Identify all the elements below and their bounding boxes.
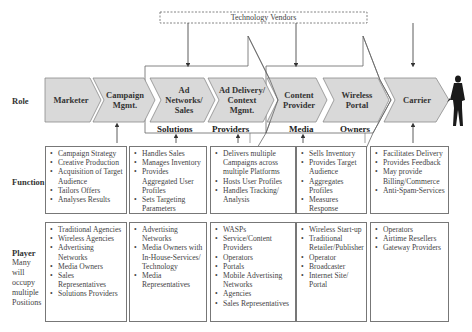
player-list: WASPs Service/Content Providers Operator…: [215, 225, 292, 308]
function-list: Sells Inventory Provides Target Audience…: [301, 149, 363, 213]
player-box-ad-networks: Advertising Networks Media Owners with I…: [129, 222, 207, 322]
player-list: Traditional Agencies Wireless Agencies A…: [50, 225, 123, 299]
player-item: WASPs: [215, 225, 292, 234]
player-item: Media Owners: [50, 262, 123, 271]
function-box-ad-networks: Handles Sales Manages Inventory Provides…: [129, 146, 207, 214]
row-label-role: Role: [12, 96, 29, 106]
player-item: Advertising Networks: [134, 225, 203, 243]
player-item: Solutions Providers: [50, 289, 123, 298]
role-marketer: Marketer: [48, 78, 94, 122]
function-list: Delivers multiple Campaigns across multi…: [215, 149, 292, 204]
function-item: Analyses Results: [50, 195, 123, 204]
function-list: Facilitates Delivery Provides Feedback M…: [375, 149, 445, 195]
role-content-provider: Content Provider: [277, 78, 321, 122]
group-label-solutions: Solutions: [157, 124, 193, 134]
role-wireless-portal: Wireless Portal: [333, 78, 381, 122]
player-item: Sales Representatives: [50, 271, 123, 289]
function-item: Provides Target Audience: [301, 158, 363, 176]
role-ad-delivery-context-mgmt: Ad Delivery/ Context Mgmt.: [217, 78, 267, 122]
player-list: Advertising Networks Media Owners with I…: [134, 225, 203, 289]
row-label-function: Function: [12, 177, 45, 187]
player-list: Wireless Start-up Traditional Retailer/P…: [301, 225, 363, 289]
player-box-marketer-campaign: Traditional Agencies Wireless Agencies A…: [45, 222, 127, 322]
player-item: Service/Content Providers: [215, 234, 292, 252]
player-item: Sales Representatives: [215, 299, 292, 308]
player-item: Airtime Resellers: [375, 234, 445, 243]
player-item: Traditional Agencies: [50, 225, 123, 234]
player-box-ad-delivery: WASPs Service/Content Providers Operator…: [210, 222, 296, 322]
player-list: Operators Airtime Resellers Gateway Prov…: [375, 225, 445, 253]
function-item: Provides Feedback: [375, 158, 445, 167]
player-item: Mobile Advertising Networks: [215, 271, 292, 289]
function-item: Aggregates Profiles: [301, 177, 363, 195]
function-item: Tailors Offers: [50, 186, 123, 195]
player-item: Operators: [215, 253, 292, 262]
function-item: Manages Inventory: [134, 158, 203, 167]
player-item: Broadcaster: [301, 262, 363, 271]
function-box-marketer-campaign: Campaign Strategy Creative Production Ac…: [45, 146, 127, 214]
function-item: Creative Production: [50, 158, 123, 167]
group-label-providers: Providers: [212, 124, 249, 134]
player-item: Media Representatives: [134, 271, 203, 289]
player-item: Gateway Providers: [375, 243, 445, 252]
function-list: Campaign Strategy Creative Production Ac…: [50, 149, 123, 204]
technology-vendors-label: Technology Vendors: [160, 12, 367, 23]
function-box-content-portal: Sells Inventory Provides Target Audience…: [296, 146, 367, 214]
function-item: Hosts User Profiles: [215, 177, 292, 186]
function-item: Acquisition of Target Audience: [50, 167, 123, 185]
player-item: Operator: [301, 253, 363, 262]
function-item: Facilitates Delivery: [375, 149, 445, 158]
consumer-figure-icon: [447, 76, 465, 127]
function-item: Handles Sales: [134, 149, 203, 158]
player-item: Agencies: [215, 289, 292, 298]
function-item: Handles Tracking/ Analysis: [215, 186, 292, 204]
function-item: Measures Response: [301, 195, 363, 213]
function-item: Delivers multiple Campaigns across multi…: [215, 149, 292, 177]
role-ad-networks-sales: Ad Networks/ Sales: [161, 78, 207, 122]
player-item: Traditional Retailer/Publisher: [301, 234, 363, 252]
function-item: Sells Inventory: [301, 149, 363, 158]
row-label-player: Player: [12, 248, 36, 258]
function-box-ad-delivery: Delivers multiple Campaigns across multi…: [210, 146, 296, 214]
player-box-content-portal: Wireless Start-up Traditional Retailer/P…: [296, 222, 367, 322]
player-item: Media Owners with In-House-Services/ Tec…: [134, 243, 203, 271]
function-item: Anti-Spam-Services: [375, 186, 445, 195]
function-list: Handles Sales Manages Inventory Provides…: [134, 149, 203, 213]
function-box-carrier: Facilitates Delivery Provides Feedback M…: [370, 146, 449, 214]
player-item: Advertising Networks: [50, 243, 123, 261]
player-item: Operators: [375, 225, 445, 234]
player-item: Wireless Start-up: [301, 225, 363, 234]
function-item: May provide Billing/Commerce: [375, 167, 445, 185]
player-item: Wireless Agencies: [50, 234, 123, 243]
player-box-carrier: Operators Airtime Resellers Gateway Prov…: [370, 222, 449, 322]
function-item: Sets Targeting Parameters: [134, 195, 203, 213]
player-item: Internet Site/ Portal: [301, 271, 363, 289]
role-carrier: Carrier: [394, 78, 440, 122]
function-item: Provides Aggregated User Profiles: [134, 167, 203, 195]
function-item: Campaign Strategy: [50, 149, 123, 158]
group-label-owners: Owners: [340, 124, 370, 134]
role-campaign-mgmt: Campaign Mgmt.: [103, 78, 147, 122]
group-label-media: Media: [289, 124, 314, 134]
row-label-player-sub: Many will occupy multiple Positions: [12, 258, 42, 308]
player-item: Portals: [215, 262, 292, 271]
